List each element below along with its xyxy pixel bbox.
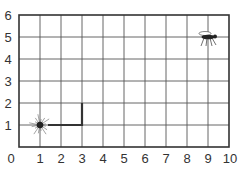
x-tick-9: 9 <box>200 152 216 165</box>
y-tick-3: 3 <box>2 75 14 88</box>
spider-icon <box>29 114 49 134</box>
y-tick-4: 4 <box>2 53 14 66</box>
grid-lines <box>19 15 229 147</box>
y-tick-5: 5 <box>2 31 14 44</box>
x-axis-origin-label: 0 <box>3 152 19 165</box>
x-tick-8: 8 <box>179 152 195 165</box>
x-tick-3: 3 <box>74 152 90 165</box>
x-tick-7: 7 <box>158 152 174 165</box>
y-tick-2: 2 <box>2 97 14 110</box>
spider-path <box>48 103 82 125</box>
x-tick-2: 2 <box>53 152 69 165</box>
x-tick-1: 1 <box>32 152 48 165</box>
y-tick-6: 6 <box>2 9 14 22</box>
y-tick-1: 1 <box>2 119 14 132</box>
x-tick-6: 6 <box>137 152 153 165</box>
x-tick-10: 10 <box>222 152 238 165</box>
x-tick-4: 4 <box>95 152 111 165</box>
coordinate-grid-diagram: 0 1 2 3 4 5 6 1 2 3 4 5 6 7 8 9 10 <box>0 0 239 171</box>
x-tick-5: 5 <box>116 152 132 165</box>
grid <box>0 0 239 171</box>
